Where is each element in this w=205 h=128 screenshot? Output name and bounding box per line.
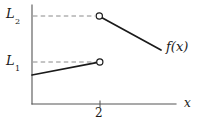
figure-canvas: L2 L1 f(x) x 2 — [0, 0, 205, 128]
x-tick-label-2: 2 — [95, 107, 103, 119]
y-label-upper-limit-base: L — [6, 6, 15, 21]
open-circle-marker-lower — [97, 59, 103, 65]
right-branch-segment — [102, 18, 161, 50]
y-label-lower-limit-base: L — [6, 53, 15, 68]
y-label-upper-limit-subscript: 2 — [15, 17, 20, 26]
y-label-lower-limit-subscript: 1 — [15, 64, 20, 73]
x-axis-label: x — [184, 97, 191, 109]
open-circle-marker-upper — [96, 13, 102, 19]
y-label-lower-limit: L1 — [6, 54, 20, 67]
left-branch-segment — [32, 63, 97, 75]
y-label-upper-limit: L2 — [6, 7, 20, 20]
function-label: f(x) — [166, 40, 188, 53]
